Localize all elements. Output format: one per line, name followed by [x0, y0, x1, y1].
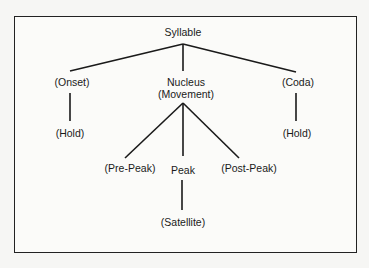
node-nucleus: Nucleus [167, 76, 205, 88]
edge-syllable-coda [183, 44, 296, 72]
edge-syllable-onset [70, 44, 183, 71]
node-syllable: Syllable [165, 26, 202, 38]
node-post-peak: (Post-Peak) [221, 162, 276, 174]
node-peak: Peak [171, 164, 195, 176]
node-coda-hold: (Hold) [283, 127, 312, 139]
node-coda: (Coda) [282, 76, 314, 88]
edge-nucleus-prepeak [125, 103, 183, 158]
edge-nucleus-postpeak [183, 103, 239, 158]
node-nucleus-movement: (Movement) [158, 88, 214, 100]
node-satellite: (Satellite) [161, 216, 205, 228]
node-pre-peak: (Pre-Peak) [105, 162, 156, 174]
node-onset-hold: (Hold) [56, 127, 85, 139]
node-onset: (Onset) [54, 76, 89, 88]
